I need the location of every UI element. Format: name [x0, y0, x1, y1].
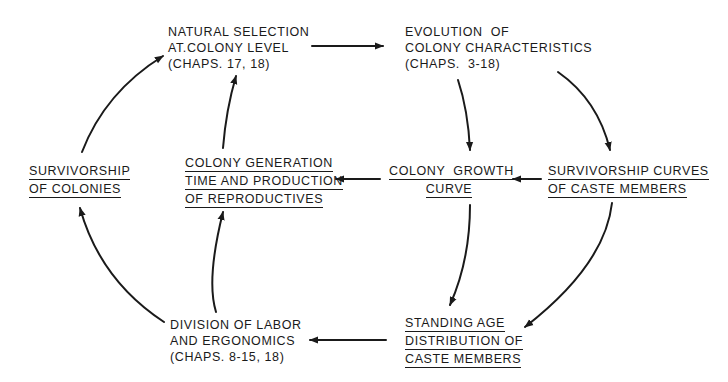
node-line: AND ERGONOMICS [170, 333, 302, 349]
node-standing-age-distribution: STANDING AGE DISTRIBUTION OF CASTE MEMBE… [405, 315, 523, 369]
arrow-survivorship-curves-to-standing-age [525, 203, 612, 327]
node-line: COLONY GROWTH [389, 163, 514, 180]
node-line: CASTE MEMBERS [405, 351, 521, 368]
node-line: CURVE [426, 181, 473, 198]
arrow-growth-curve-to-standing-age [450, 205, 470, 305]
node-line: (CHAPS. 8-15, 18) [170, 349, 302, 365]
node-line: OF CASTE MEMBERS [548, 181, 687, 198]
node-line: COLONY GENERATION [185, 155, 333, 172]
arrow-evolution-to-growth-curve [458, 80, 470, 150]
node-line: OF COLONIES [29, 181, 121, 198]
node-line: DISTRIBUTION OF [405, 333, 523, 350]
node-line: OF REPRODUCTIVES [185, 191, 323, 208]
arrow-division-of-labor-to-generation [212, 212, 223, 312]
node-line: NATURAL SELECTION [168, 24, 309, 40]
node-line: TIME AND PRODUCTION [185, 173, 343, 190]
arrow-survivorship-colonies-to-natural-selection [82, 56, 163, 152]
node-line: SURVIVORSHIP [29, 163, 130, 180]
arrow-generation-to-natural-selection [223, 76, 236, 148]
node-line: DIVISION OF LABOR [170, 317, 302, 333]
node-line: EVOLUTION OF [405, 24, 592, 40]
node-line: (CHAPS. 3-18) [405, 56, 592, 72]
arrow-evolution-to-survivorship-curves [558, 72, 610, 150]
node-survivorship-of-colonies: SURVIVORSHIP OF COLONIES [29, 163, 130, 199]
node-natural-selection: NATURAL SELECTION AT.COLONY LEVEL (CHAPS… [168, 24, 309, 72]
node-line: STANDING AGE [405, 315, 505, 332]
node-division-of-labor: DIVISION OF LABOR AND ERGONOMICS (CHAPS.… [170, 317, 302, 365]
node-evolution-colony-characteristics: EVOLUTION OF COLONY CHARACTERISTICS (CHA… [405, 24, 592, 72]
node-survivorship-curves-caste: SURVIVORSHIP CURVES OF CASTE MEMBERS [548, 163, 709, 199]
node-colony-growth-curve: COLONY GROWTH CURVE [389, 163, 509, 199]
node-line: SURVIVORSHIP CURVES [548, 163, 709, 180]
node-line: AT.COLONY LEVEL [168, 40, 309, 56]
node-line: (CHAPS. 17, 18) [168, 56, 309, 72]
node-line: COLONY CHARACTERISTICS [405, 40, 592, 56]
arrow-division-of-labor-to-survivorship-colonies [80, 208, 164, 322]
node-colony-generation-time: COLONY GENERATION TIME AND PRODUCTION OF… [185, 155, 343, 209]
